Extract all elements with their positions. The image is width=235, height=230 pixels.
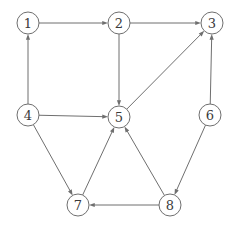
graph-edge-4-to-1 xyxy=(26,34,30,104)
graph-node-7[interactable]: 7 xyxy=(67,194,89,216)
graph-edge-4-to-7 xyxy=(33,125,72,196)
edge-line xyxy=(39,115,104,116)
graph-node-4[interactable]: 4 xyxy=(17,104,39,126)
edge-line xyxy=(127,34,202,109)
node-label: 1 xyxy=(24,16,32,31)
node-label: 3 xyxy=(208,16,216,31)
graph-edge-2-to-5 xyxy=(117,34,121,106)
edge-arrowhead xyxy=(195,21,201,25)
edge-line xyxy=(83,131,113,195)
node-label: 6 xyxy=(206,108,214,123)
node-label: 8 xyxy=(166,198,174,213)
graph-node-6[interactable]: 6 xyxy=(199,104,221,126)
graph-edge-7-to-5 xyxy=(83,127,115,195)
graph-edge-6-to-8 xyxy=(174,125,205,195)
graph-edge-8-to-7 xyxy=(89,203,159,207)
edge-arrowhead xyxy=(26,34,30,40)
node-label: 2 xyxy=(115,16,123,31)
graph-edge-4-to-5 xyxy=(39,115,108,119)
node-label: 5 xyxy=(115,110,123,125)
graph-node-8[interactable]: 8 xyxy=(159,194,181,216)
edge-arrowhead xyxy=(125,127,130,133)
graph-canvas: 12345678 xyxy=(0,0,235,230)
graph-edge-6-to-3 xyxy=(210,34,214,104)
edge-arrowhead xyxy=(68,189,73,195)
graph-node-5[interactable]: 5 xyxy=(108,106,130,128)
graph-edge-2-to-3 xyxy=(130,21,201,25)
edge-arrowhead xyxy=(117,100,121,106)
edge-arrowhead xyxy=(210,34,214,40)
edge-line xyxy=(210,38,211,104)
directed-graph-figure: 12345678 xyxy=(0,0,235,230)
edge-line xyxy=(33,125,70,192)
edge-arrowhead xyxy=(89,203,95,207)
graph-node-3[interactable]: 3 xyxy=(201,12,223,34)
edge-arrowhead xyxy=(102,21,108,25)
graph-node-1[interactable]: 1 xyxy=(17,12,39,34)
graph-edge-8-to-5 xyxy=(125,127,165,196)
graph-node-2[interactable]: 2 xyxy=(108,12,130,34)
edge-line xyxy=(127,130,165,195)
edge-arrowhead xyxy=(110,127,114,133)
edge-arrowhead xyxy=(174,189,178,195)
edge-arrowhead xyxy=(102,115,108,119)
edge-line xyxy=(176,125,205,191)
node-label: 4 xyxy=(24,108,32,123)
graph-edge-5-to-3 xyxy=(127,31,205,109)
node-label: 7 xyxy=(74,198,82,213)
graph-edge-1-to-2 xyxy=(39,21,108,25)
